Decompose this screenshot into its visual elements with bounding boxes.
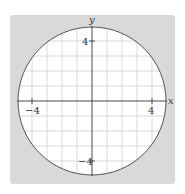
tick-label-x-4: 4 bbox=[148, 105, 154, 116]
y-axis-label: y bbox=[88, 14, 95, 25]
tick-label-y-4: 4 bbox=[82, 36, 88, 47]
circle-graph: −4 4 4 −4 x y bbox=[0, 0, 185, 194]
tick-label-y-neg4: −4 bbox=[78, 156, 93, 167]
x-axis-label: x bbox=[168, 95, 174, 106]
tick-label-x-neg4: −4 bbox=[25, 105, 40, 116]
